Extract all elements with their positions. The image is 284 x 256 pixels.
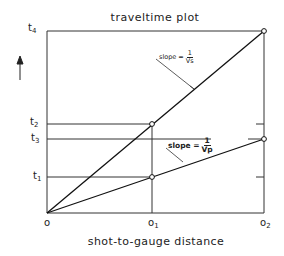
y-tick-t3: t3 [31,133,39,145]
x-tick-o1: o1 [148,218,159,230]
x-tick-origin: o [44,218,50,228]
point-o2-t3 [262,137,267,142]
y-tick-t2: t2 [30,117,38,129]
y-tick-t4: t4 [28,23,36,35]
traveltime-plot-graphic [0,0,284,256]
point-o2-t4 [262,29,267,34]
plot-title: traveltime plot [0,12,284,23]
y-tick-t1: t1 [33,171,41,183]
x-tick-o2: o2 [260,218,271,230]
slope-p-annotation: slope = 1Vp [168,137,213,153]
point-o1-t2 [150,122,155,127]
point-o1-t1 [150,175,155,180]
slope-s-annotation: slope = 1Vs [159,50,194,64]
p-wave-line [47,139,264,213]
s-wave-line [47,31,264,213]
x-axis-label: shot-to-gauge distance [47,236,265,247]
